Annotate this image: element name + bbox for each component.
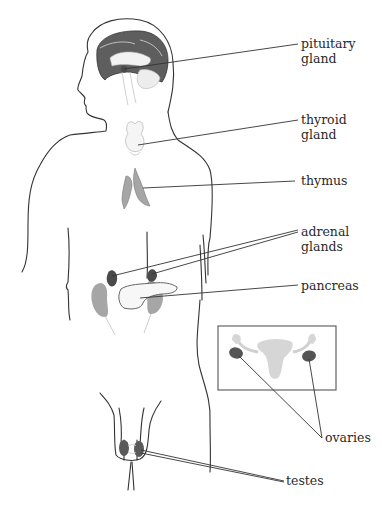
label-pituitary-line2: gland bbox=[301, 51, 356, 66]
label-adrenal-glands: adrenal glands bbox=[301, 224, 349, 254]
thymus bbox=[122, 168, 150, 209]
label-adrenal-line2: glands bbox=[301, 239, 349, 254]
abdominal-organs bbox=[91, 269, 177, 335]
label-adrenal-line1: adrenal bbox=[301, 224, 349, 239]
label-ovaries-line1: ovaries bbox=[325, 430, 371, 445]
label-thymus-line1: thymus bbox=[301, 173, 347, 188]
ovaries-inset bbox=[218, 326, 336, 390]
label-testes: testes bbox=[286, 473, 324, 488]
label-thyroid-line1: thyroid bbox=[301, 112, 347, 127]
body-outline bbox=[22, 19, 212, 490]
testes bbox=[119, 440, 144, 457]
label-ovaries: ovaries bbox=[325, 430, 371, 445]
label-pituitary-line1: pituitary bbox=[301, 36, 356, 51]
label-pancreas: pancreas bbox=[301, 278, 359, 293]
label-pituitary-gland: pituitary gland bbox=[301, 36, 356, 66]
endocrine-diagram: pituitary gland thyroid gland thymus adr… bbox=[0, 0, 382, 505]
label-testes-line1: testes bbox=[286, 473, 324, 488]
adrenal-gland-left bbox=[107, 270, 117, 286]
leader-lines bbox=[112, 44, 322, 482]
label-thyroid-gland: thyroid gland bbox=[301, 112, 347, 142]
label-thymus: thymus bbox=[301, 173, 347, 188]
label-thyroid-line2: gland bbox=[301, 127, 347, 142]
thyroid bbox=[126, 122, 144, 155]
adrenal-gland-right bbox=[147, 269, 157, 282]
label-pancreas-line1: pancreas bbox=[301, 278, 359, 293]
